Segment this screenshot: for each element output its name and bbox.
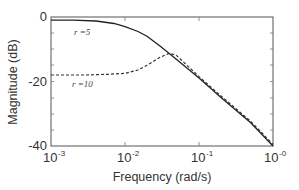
- bode-magnitude-plot: 0 -20 -40 10 -3 10 -2 10 -1 10 -0 Freque…: [0, 0, 299, 190]
- xtick-1e-2: 10 -2: [117, 149, 140, 165]
- ytick-0: 0: [40, 9, 47, 24]
- series-r10-dashed: [51, 53, 273, 144]
- chart-figure: 0 -20 -40 10 -3 10 -2 10 -1 10 -0 Freque…: [0, 0, 299, 190]
- xtick-1e0: 10 -0: [264, 149, 287, 165]
- xtick-1e-1: 10 -1: [191, 149, 214, 165]
- annotation-r10: r =10: [72, 79, 93, 89]
- xtick-1e-3: 10 -3: [43, 149, 66, 165]
- svg-text:10: 10: [264, 150, 278, 165]
- svg-text:10: 10: [117, 150, 131, 165]
- y-axis-label: Magnitude (dB): [6, 39, 20, 124]
- svg-text:10: 10: [43, 150, 57, 165]
- x-axis-label: Frequency (rad/s): [113, 170, 212, 184]
- svg-text:-2: -2: [132, 149, 140, 158]
- ytick-minus20: -20: [28, 74, 47, 89]
- x-ticks: [125, 17, 199, 146]
- annotation-r5: r =5: [74, 27, 91, 37]
- svg-text:-0: -0: [279, 149, 287, 158]
- svg-text:10: 10: [191, 150, 205, 165]
- svg-text:-1: -1: [206, 149, 214, 158]
- svg-text:-3: -3: [58, 149, 66, 158]
